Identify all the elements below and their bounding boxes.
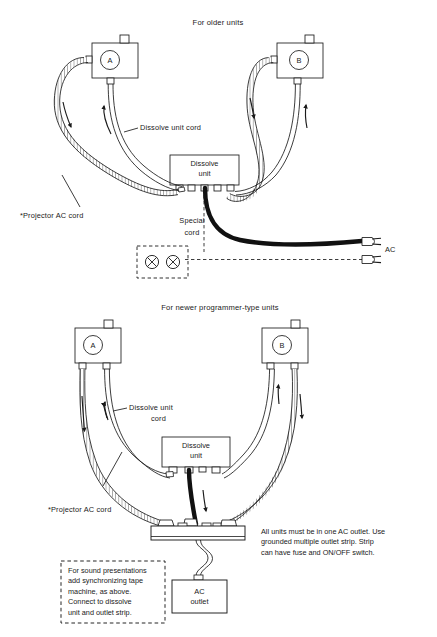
special-cord-label-line1: Special xyxy=(168,216,216,226)
ac-label-upper: AC xyxy=(385,245,396,255)
projector-ac-cord-label-lower: *Projector AC cord xyxy=(48,505,112,515)
dissolve-unit-cord-b-upper xyxy=(235,84,300,195)
lower-diagram-title: For newer programmer-type units xyxy=(125,303,315,313)
projector-b-badge-label-lower: B xyxy=(273,341,291,351)
special-cord-label-line2: cord xyxy=(168,228,216,238)
ac-outlet-label-line1: AC xyxy=(172,587,227,596)
outlet-receptacle-symbols xyxy=(145,255,179,268)
dissolve-unit-label-line1-upper: Dissolve xyxy=(170,159,239,168)
dissolve-unit-label-line2-upper: unit xyxy=(170,169,239,178)
leader-projector-cord-lower xyxy=(103,452,122,486)
ac-plug-upper-2 xyxy=(362,256,381,264)
sound-presentation-note-text: For sound presentations add synchronizin… xyxy=(68,566,166,618)
projector-a-ac-cord-lower xyxy=(80,369,164,527)
dissolve-unit-label-line2-lower: unit xyxy=(162,451,230,460)
leader-dissolve-cord-upper xyxy=(124,128,138,132)
upper-diagram-title: For older units xyxy=(148,18,288,28)
diagram-canvas: For older units A B Dissolve unit Dissol… xyxy=(0,0,437,637)
multiple-outlet-strip xyxy=(151,519,245,540)
projector-a-badge-label-upper: A xyxy=(101,56,119,66)
leader-dissolve-cord-lower xyxy=(113,408,127,411)
outlet-strip-to-ac-outlet-cord xyxy=(194,540,213,580)
projector-ac-cord-label-upper: *Projector AC cord xyxy=(20,211,84,221)
dissolve-unit-label-line1-lower: Dissolve xyxy=(162,441,230,450)
special-cord-outlet-box xyxy=(137,246,188,278)
dissolve-unit-cord-label-line2-lower: cord xyxy=(151,414,166,424)
projector-b-ac-cord-lower xyxy=(225,369,297,527)
dissolve-unit-cord-label-upper: Dissolve unit cord xyxy=(140,123,201,133)
ac-outlet-label-line2: outlet xyxy=(172,597,227,606)
ac-plug-upper-1 xyxy=(362,238,381,246)
projector-a-badge-label-lower: A xyxy=(84,341,102,351)
projector-b-badge-label-upper: B xyxy=(290,56,308,66)
dissolve-unit-cord-label-line1-lower: Dissolve unit xyxy=(129,403,173,413)
main-ac-cord-lower xyxy=(189,470,196,524)
leader-projector-cord-upper xyxy=(62,175,80,207)
ac-outlet-requirement-note: All units must be in one AC outlet. Use … xyxy=(261,527,437,558)
